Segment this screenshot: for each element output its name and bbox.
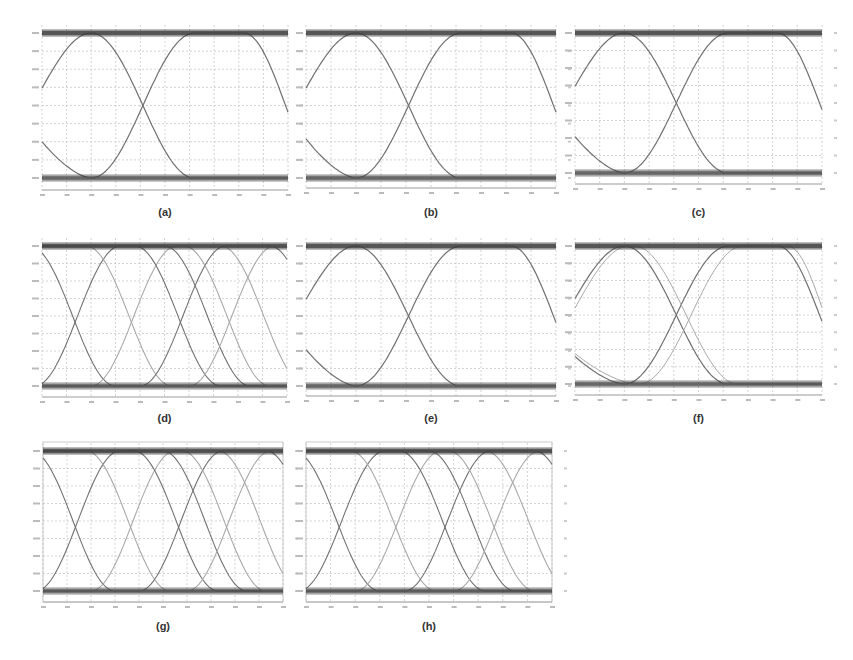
eye-diagram-plot [292,25,570,198]
panel-caption-a: (a) [145,206,185,218]
eye-diagram-plot [292,238,570,406]
eye-diagram-plot [29,440,297,612]
panel-caption-h: (h) [409,620,449,632]
eye-diagram-panel-b: (b) [292,25,570,198]
panel-caption-c: (c) [679,206,719,218]
panel-caption-g: (g) [143,620,183,632]
panel-caption-d: (d) [145,412,185,424]
eye-diagram-panel-e: (e) [292,238,570,406]
panel-caption-e: (e) [411,412,451,424]
eye-diagram-plot [28,238,301,407]
panel-caption-b: (b) [411,206,451,218]
eye-diagram-plot [292,440,566,612]
eye-diagram-panel-g: (g) [29,440,297,612]
eye-diagram-plot [561,25,836,194]
panel-caption-f: (f) [679,412,719,424]
eye-diagram-plot [561,238,836,405]
eye-diagram-panel-a: (a) [28,25,302,200]
eye-diagram-panel-h: (h) [292,440,566,612]
eye-diagram-plot [28,25,302,200]
eye-diagram-panel-c: (c) [561,25,836,194]
eye-diagram-panel-f: (f) [561,238,836,405]
eye-diagram-panel-d: (d) [28,238,301,407]
